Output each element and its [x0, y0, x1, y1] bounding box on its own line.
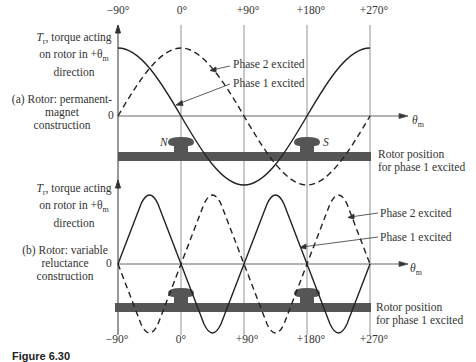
y-axes: [116, 25, 121, 335]
pole-s-label: S: [323, 136, 329, 149]
rotor-pole-s-a: [294, 137, 320, 152]
tick-bottom-180: +180°: [297, 333, 325, 345]
phase1-label-b: Phase 1 excited: [380, 231, 452, 244]
rotor-pole-n-a: [168, 137, 194, 152]
y-axis-label-b: Tr, torque acting on rotor in +θm direct…: [36, 182, 112, 230]
y-axis-label-a: Tr, torque acting on rotor in +θm direct…: [36, 31, 112, 79]
leader-lines-a: [176, 66, 230, 106]
panel-b-title: (b) Rotor: variable reluctance construct…: [20, 244, 110, 283]
x-axis-label-b: θm: [410, 262, 422, 279]
rotor-label-a: Rotor position for phase 1 excited: [378, 148, 465, 174]
tick-bottom-90: +90°: [236, 333, 259, 345]
panel-a-title: (a) Rotor: permanent- magnet constructio…: [10, 93, 114, 132]
tick-top-neg90: −90°: [107, 4, 130, 16]
leader-lines-b: [300, 213, 378, 249]
tick-top-270: +270°: [360, 4, 388, 16]
phase2-label-a: Phase 2 excited: [233, 58, 305, 71]
zero-label-b: 0: [106, 257, 112, 270]
phase1-label-a: Phase 1 excited: [233, 77, 305, 90]
figure-caption: Figure 6.30: [12, 350, 70, 362]
rotor-label-b: Rotor position for phase 1 excited: [376, 301, 463, 327]
tick-top-180: +180°: [297, 4, 325, 16]
rotor-bar-a: [118, 152, 371, 161]
rotor-pole-b2: [294, 288, 320, 303]
tick-bottom-neg90: −90°: [106, 333, 129, 345]
tick-bottom-0: 0°: [176, 333, 186, 345]
zero-label-a: 0: [108, 109, 114, 122]
rotor-bar-b: [115, 303, 371, 312]
x-axis-label-a: θm: [412, 114, 424, 131]
tick-bottom-270: +270°: [360, 333, 388, 345]
tick-top-0: 0°: [177, 4, 187, 16]
pole-n-label: N: [160, 136, 168, 149]
vertical-gridlines: [181, 25, 370, 335]
tick-top-90: +90°: [237, 4, 260, 16]
rotor-pole-b1: [168, 288, 194, 303]
phase2-label-b: Phase 2 excited: [380, 207, 452, 220]
